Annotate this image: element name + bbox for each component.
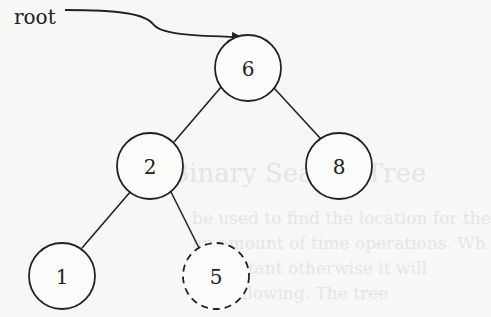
node-value: 2 <box>144 155 157 179</box>
edge-2-1 <box>82 191 131 248</box>
edge-6-8 <box>274 88 320 138</box>
tree-node-5-dashed: 5 <box>183 243 249 309</box>
tree-node-8: 8 <box>306 133 372 199</box>
edge-6-2 <box>174 86 222 142</box>
root-pointer-label: root <box>14 5 56 29</box>
edge-2-5 <box>170 190 199 248</box>
node-value: 6 <box>242 57 255 81</box>
root-pointer-arrow <box>65 10 240 37</box>
tree-node-2: 2 <box>117 133 183 199</box>
node-value: 8 <box>333 155 346 179</box>
tree-node-6: 6 <box>215 35 281 101</box>
tree-node-1: 1 <box>29 243 95 309</box>
node-value: 5 <box>210 265 223 289</box>
node-value: 1 <box>56 265 69 289</box>
